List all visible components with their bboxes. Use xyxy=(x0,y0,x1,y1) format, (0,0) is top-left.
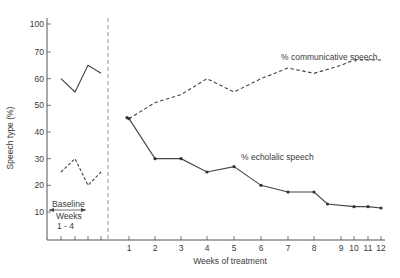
x-tick-label: 6 xyxy=(259,243,264,253)
y-tick-label: 60 xyxy=(35,74,45,84)
data-point-marker xyxy=(205,170,208,173)
x-tick-label: 10 xyxy=(349,243,359,253)
x-axis-label: Weeks of treatment xyxy=(193,256,267,266)
baseline-series-line xyxy=(61,159,101,186)
x-tick-label: 8 xyxy=(312,243,317,253)
baseline-range-label: 1 - 4 xyxy=(57,221,74,231)
y-tick-label: 10 xyxy=(35,207,45,217)
baseline-label: Baseline xyxy=(52,199,85,209)
baseline-series-line xyxy=(61,65,101,92)
data-point-marker xyxy=(179,157,182,160)
data-point-marker xyxy=(352,205,355,208)
x-tick-label: 4 xyxy=(205,243,210,253)
x-tick-label: 7 xyxy=(286,243,291,253)
treatment-series-line xyxy=(129,119,381,208)
x-tick-label: 12 xyxy=(376,243,386,253)
baseline-weeks-label: Weeks xyxy=(56,211,82,221)
y-tick-label: 70 xyxy=(35,47,45,57)
x-tick-label: 1 xyxy=(127,243,132,253)
echolalic-label: % echolalic speech xyxy=(241,152,314,162)
x-ticks: 123456789101112 xyxy=(127,236,386,253)
data-point-marker xyxy=(259,184,262,187)
treatment-series-line xyxy=(129,60,381,119)
data-point-marker xyxy=(312,190,315,193)
y-tick-label: 100 xyxy=(30,19,44,29)
data-point-marker xyxy=(232,165,235,168)
series-layer xyxy=(61,60,383,210)
data-point-marker xyxy=(366,205,369,208)
x-tick-label: 11 xyxy=(364,243,373,253)
x-tick-label: 3 xyxy=(179,243,184,253)
baseline-ticks xyxy=(61,236,101,240)
y-tick-label: 20 xyxy=(35,180,45,190)
data-point-marker xyxy=(326,202,329,205)
data-point-marker xyxy=(125,116,128,119)
data-point-marker xyxy=(153,157,156,160)
communicative-label: % communicative speech xyxy=(281,52,378,62)
data-point-marker xyxy=(379,206,382,209)
y-axis-label: Speech type (%) xyxy=(5,106,15,169)
data-point-marker xyxy=(286,190,289,193)
y-tick-label: 30 xyxy=(35,154,45,164)
x-tick-label: 5 xyxy=(232,243,237,253)
speech-type-chart: 10070605040302010 123456789101112 Speech… xyxy=(0,0,400,278)
y-tick-label: 40 xyxy=(35,127,45,137)
y-tick-label: 50 xyxy=(35,100,45,110)
x-tick-label: 9 xyxy=(339,243,344,253)
y-ticks: 10070605040302010 xyxy=(30,19,51,217)
x-tick-label: 2 xyxy=(153,243,158,253)
